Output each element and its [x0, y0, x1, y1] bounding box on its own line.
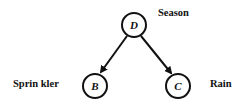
node-d-letter: D	[122, 18, 146, 32]
rain-label: Rain	[210, 78, 232, 89]
node-b-letter: B	[83, 79, 107, 93]
season-label: Season	[158, 7, 189, 18]
edge-d-to-b	[101, 36, 127, 72]
edge-d-to-c	[141, 36, 171, 73]
node-c-letter: C	[166, 79, 190, 93]
sprinkler-label: Sprin kler	[13, 78, 59, 89]
network-graph	[0, 0, 241, 106]
